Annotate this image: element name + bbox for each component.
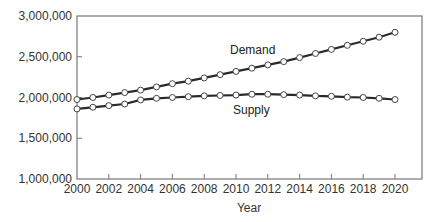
demand-series bbox=[74, 29, 398, 102]
y-tick-label: 2,500,000 bbox=[19, 50, 73, 64]
data-point-marker bbox=[376, 34, 382, 40]
data-point-marker bbox=[90, 95, 96, 101]
data-point-marker bbox=[217, 72, 223, 78]
x-tick-label: 2018 bbox=[350, 182, 377, 196]
data-point-marker bbox=[281, 92, 287, 98]
data-point-marker bbox=[201, 75, 207, 81]
data-point-marker bbox=[185, 94, 191, 100]
data-point-marker bbox=[154, 84, 160, 90]
x-tick-label: 2012 bbox=[254, 182, 281, 196]
series-layer bbox=[74, 29, 398, 112]
data-point-marker bbox=[360, 95, 366, 101]
data-point-marker bbox=[297, 92, 303, 98]
data-point-marker bbox=[185, 78, 191, 84]
y-tick-label: 3,000,000 bbox=[19, 9, 73, 23]
x-tick-label: 2020 bbox=[382, 182, 409, 196]
y-tick-label: 1,500,000 bbox=[19, 131, 73, 145]
x-axis-title: Year bbox=[237, 201, 261, 215]
x-tick-label: 2014 bbox=[286, 182, 313, 196]
data-point-marker bbox=[313, 93, 319, 99]
y-tick-label: 2,000,000 bbox=[19, 91, 73, 105]
data-point-marker bbox=[217, 92, 223, 98]
data-point-marker bbox=[328, 93, 334, 99]
supply-series-label: Supply bbox=[233, 103, 270, 117]
data-point-marker bbox=[169, 95, 175, 101]
data-point-marker bbox=[233, 68, 239, 74]
data-point-marker bbox=[138, 87, 144, 93]
data-point-marker bbox=[122, 90, 128, 96]
x-tick-label: 2016 bbox=[318, 182, 345, 196]
y-axis: 1,000,0001,500,0002,000,0002,500,0003,00… bbox=[19, 9, 82, 186]
demand-series-label: Demand bbox=[230, 43, 275, 57]
data-point-marker bbox=[344, 94, 350, 100]
x-tick-label: 2000 bbox=[64, 182, 91, 196]
data-point-marker bbox=[90, 104, 96, 110]
data-point-marker bbox=[297, 55, 303, 61]
data-point-marker bbox=[265, 91, 271, 97]
x-tick-label: 2002 bbox=[95, 182, 122, 196]
data-point-marker bbox=[360, 38, 366, 44]
data-point-marker bbox=[265, 62, 271, 68]
data-point-marker bbox=[122, 101, 128, 107]
supply-demand-chart: 1,000,0001,500,0002,000,0002,500,0003,00… bbox=[0, 0, 445, 222]
data-point-marker bbox=[74, 97, 80, 103]
data-point-marker bbox=[376, 95, 382, 101]
data-point-marker bbox=[106, 103, 112, 109]
data-point-marker bbox=[249, 65, 255, 71]
data-point-marker bbox=[74, 106, 80, 112]
data-point-marker bbox=[201, 93, 207, 99]
data-point-marker bbox=[169, 81, 175, 87]
data-point-marker bbox=[328, 46, 334, 52]
data-point-marker bbox=[154, 95, 160, 101]
data-point-marker bbox=[392, 29, 398, 35]
data-point-marker bbox=[313, 50, 319, 56]
data-point-marker bbox=[281, 59, 287, 65]
x-tick-label: 2004 bbox=[127, 182, 154, 196]
data-point-marker bbox=[106, 92, 112, 98]
data-point-marker bbox=[344, 42, 350, 48]
x-tick-label: 2008 bbox=[191, 182, 218, 196]
x-axis: 2000200220042006200820102012201420162018… bbox=[64, 174, 409, 196]
data-point-marker bbox=[392, 97, 398, 103]
x-tick-label: 2010 bbox=[223, 182, 250, 196]
data-point-marker bbox=[249, 91, 255, 97]
data-point-marker bbox=[233, 92, 239, 98]
data-point-marker bbox=[138, 97, 144, 103]
x-tick-label: 2006 bbox=[159, 182, 186, 196]
